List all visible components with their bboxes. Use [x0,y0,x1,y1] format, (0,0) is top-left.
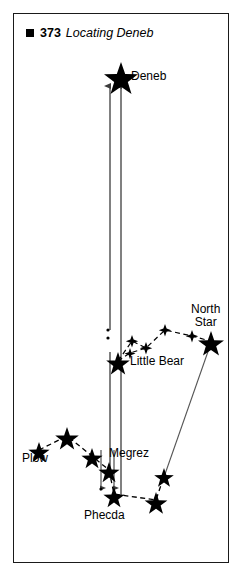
label-little-bear: Little Bear [130,355,184,368]
figure-title: 373 Locating Deneb [26,26,153,40]
label-plow: Plow [22,452,48,465]
figure-page: 373 Locating Deneb [0,0,243,578]
square-bullet-icon [26,29,34,37]
figure-title-text: Locating Deneb [66,26,154,40]
figure-number: 373 [40,26,61,40]
label-north-star: North Star [191,303,220,329]
label-north-star-line2: Star [191,316,220,329]
label-phecda: Phecda [84,509,125,522]
label-deneb: Deneb [131,70,166,83]
figure-frame [13,13,229,563]
label-megrez: Megrez [109,447,149,460]
